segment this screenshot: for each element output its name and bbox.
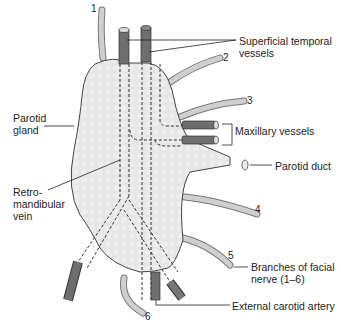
label-line: mandibular xyxy=(13,198,65,210)
maxillary-vessels xyxy=(182,121,219,144)
label-external-carotid: External carotid artery xyxy=(232,300,335,312)
label-retromandibular-vein: Retro- mandibular vein xyxy=(13,186,65,222)
parotid-duct xyxy=(242,160,248,170)
superficial-temporal-vessels xyxy=(119,26,151,65)
external-carotid-artery xyxy=(151,272,160,300)
label-line: Retro- xyxy=(13,186,65,198)
nerve-number-1: 1 xyxy=(91,3,97,14)
nerve-number-4: 4 xyxy=(255,204,261,215)
label-line: nerve (1–6) xyxy=(251,273,334,285)
nerve-number-3: 3 xyxy=(247,95,253,106)
nerve-number-2: 2 xyxy=(223,52,229,63)
label-parotid-duct: Parotid duct xyxy=(275,160,331,172)
label-facial-nerve: Branches of facial nerve (1–6) xyxy=(251,261,334,285)
parotid-gland xyxy=(71,59,230,272)
label-maxillary-vessels: Maxillary vessels xyxy=(235,125,314,137)
label-line: vein xyxy=(13,210,65,222)
label-superficial-temporal: Superficial temporal vessels xyxy=(239,35,332,59)
label-line: Superficial temporal xyxy=(239,35,332,47)
label-line: Branches of facial xyxy=(251,261,334,273)
label-parotid-gland: Parotid gland xyxy=(13,112,46,136)
label-line: gland xyxy=(13,124,46,136)
nerve-number-6: 6 xyxy=(145,311,151,322)
nerve-number-5: 5 xyxy=(228,250,234,261)
label-line: vessels xyxy=(239,47,332,59)
label-line: Parotid xyxy=(13,112,46,124)
